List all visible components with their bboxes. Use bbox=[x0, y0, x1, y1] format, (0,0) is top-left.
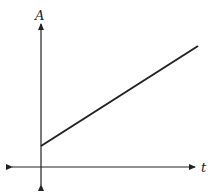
data-line bbox=[41, 46, 198, 146]
x-axis-label: t bbox=[201, 160, 207, 175]
chart: A t bbox=[0, 0, 217, 195]
y-axis-label: A bbox=[34, 8, 44, 23]
